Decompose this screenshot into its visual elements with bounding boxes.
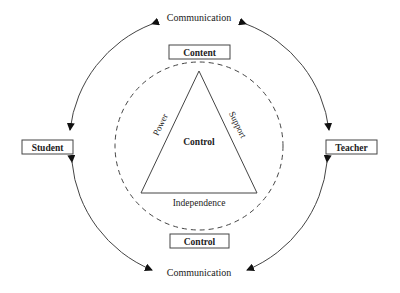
communication-bottom-label: Communication (167, 267, 231, 278)
communication-top-label: Communication (167, 12, 231, 23)
teacher-label: Teacher (335, 143, 368, 153)
arc-bottom-left (72, 162, 152, 270)
power-label: Power (151, 112, 170, 137)
arc-top-left (70, 24, 152, 130)
arc-bottom-right (247, 162, 327, 270)
diagram-canvas: Communication Communication Content Cont… (0, 0, 400, 293)
independence-label: Independence (173, 198, 226, 208)
triangle-center-label: Control (183, 137, 215, 147)
student-label: Student (32, 143, 65, 153)
control-box-label: Control (184, 237, 216, 247)
content-label: Content (183, 48, 217, 58)
arc-top-right (246, 24, 329, 130)
